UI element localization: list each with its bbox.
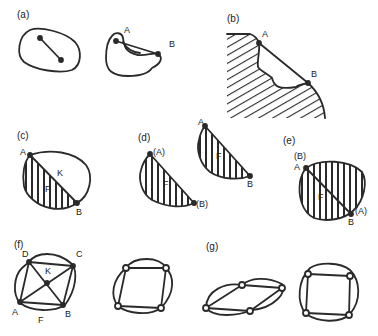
point-b-label: B [65,310,71,319]
panel-a-label: (a) [17,10,29,20]
point-a-label: A [12,308,18,317]
point-f-label: F [318,193,324,202]
panel-g-label: (g) [206,242,218,252]
panel-a-nonconvex-shape [106,33,161,76]
point-f-label: F [163,180,169,189]
point-a-paren-label: (A) [153,148,165,157]
point-b-paren-label: (B) [294,152,306,161]
panel-c-label: (c) [17,131,29,141]
point-f-label: F [38,316,44,325]
point-b-label: B [247,180,253,189]
point-a-label: A [294,163,300,172]
point-b-label: B [76,208,82,217]
point-a-label: A [262,30,268,39]
point-b-label: B [311,70,317,79]
panel-a-convex-shape [19,29,80,72]
point-b-label: B [169,40,175,49]
panel-b-label: (b) [227,14,239,24]
point-k-label: K [57,169,63,178]
point-a-label: A [198,118,204,127]
panel-g-right-shape [300,264,359,321]
point-k-label: K [45,267,51,276]
panel-f-right-shape [113,259,172,313]
panel-e-label: (e) [283,136,295,146]
panel-f-shape [15,254,75,310]
point-d-label: D [22,250,29,259]
panel-g-left-shape [203,279,285,315]
point-a-label: A [124,26,130,35]
point-a-label: A [20,148,26,157]
panel-d-label: (d) [138,133,150,143]
point-a-paren-label: (A) [355,207,367,216]
diagram-figure: (a) A B (b) A B (c) A K F B (d) (A) F (B… [0,0,378,336]
point-f-label: F [45,185,51,194]
panel-d-right-shape [198,124,252,179]
point-f-label: F [216,152,222,161]
point-b-label: B [348,218,354,227]
point-b-paren-label: (B) [196,200,208,209]
point-c-label: C [76,250,83,259]
panel-c-shape [23,152,90,209]
